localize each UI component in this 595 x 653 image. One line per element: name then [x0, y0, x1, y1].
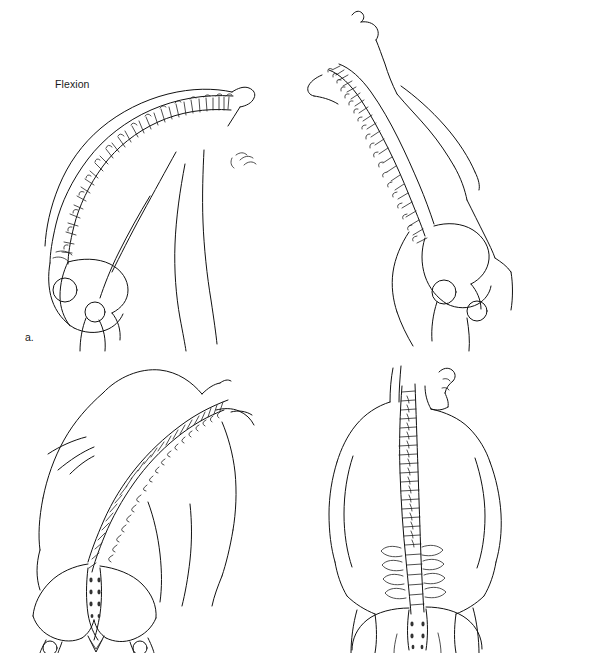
sacral-foramina [89, 578, 100, 618]
vertebral-column-rotation [381, 384, 446, 614]
vertebral-column-lateral-flexion [88, 400, 228, 572]
spinous-processes [108, 412, 220, 562]
lateral-flexion-body-outline [37, 370, 254, 606]
vertebrae-segments [89, 402, 223, 568]
pelvis-flexion [49, 251, 128, 351]
lumbar-transverse-processes [381, 545, 446, 598]
panel-hyperextension: Hyperextension b. [297, 0, 595, 352]
rotation-illustration [297, 352, 595, 653]
spinous-processes [64, 94, 232, 249]
vertebrae-segments [399, 391, 424, 605]
flexion-illustration [0, 0, 297, 352]
pelvis-lateral-flexion [33, 564, 156, 653]
caption-flexion: Flexion [55, 78, 90, 91]
panel-lateral-flexion: Lateral flexion to right [0, 352, 297, 653]
figure-root: Flexion a. [0, 0, 595, 653]
hyperextension-body-outline [308, 11, 513, 346]
vertebral-column-flexion [50, 94, 233, 264]
panel-rotation: Rotation to right [297, 352, 595, 653]
lateral-flexion-illustration [0, 352, 297, 653]
vertebral-column-hyperextension [328, 64, 434, 243]
hyperextension-illustration [297, 0, 595, 352]
panel-letter-a: a. [25, 331, 34, 343]
pelvis-hyperextension [422, 224, 491, 351]
panel-flexion: Flexion a. [0, 0, 297, 352]
vertebrae-segments [332, 66, 427, 243]
sacral-foramina [410, 622, 424, 650]
pelvis-rotation [352, 607, 482, 653]
